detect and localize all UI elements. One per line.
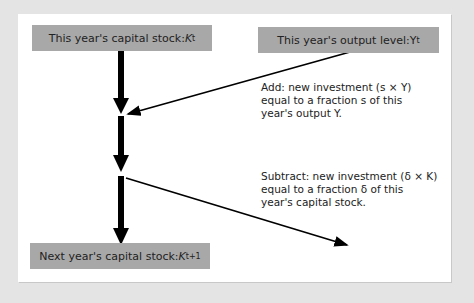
- next-capital-stock-box: Next year's capital stock: Kt+1: [30, 243, 210, 269]
- note-line: year's output Y.: [261, 107, 411, 120]
- box-label: This year's output level:: [277, 34, 409, 47]
- variable: Y: [410, 34, 417, 47]
- note-line: Add: new investment (s × Y): [261, 81, 411, 94]
- note-line: Subtract: new investment (δ × K): [261, 170, 437, 183]
- add-investment-note: Add: new investment (s × Y) equal to a f…: [261, 81, 411, 120]
- capital-stock-box: This year's capital stock: Kt: [32, 25, 212, 51]
- note-line: equal to a fraction δ of this: [261, 183, 437, 196]
- variable: K: [185, 32, 192, 45]
- subscript: t+1: [186, 252, 201, 261]
- note-line: year's capital stock.: [261, 196, 437, 209]
- main-flow-arrow: [113, 50, 129, 245]
- variable: K: [179, 250, 186, 263]
- subscript: t: [192, 34, 195, 43]
- box-label: Next year's capital stock:: [39, 250, 178, 263]
- box-label: This year's capital stock:: [49, 32, 185, 45]
- subscript: t: [417, 36, 420, 45]
- note-line: equal to a fraction s of this: [261, 94, 411, 107]
- output-level-box: This year's output level: Yt: [258, 27, 439, 53]
- subtract-depreciation-note: Subtract: new investment (δ × K) equal t…: [261, 170, 437, 209]
